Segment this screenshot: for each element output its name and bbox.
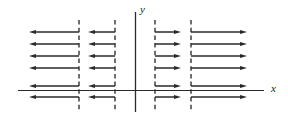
arrow-head [88,30,95,34]
vector-field-canvas: x y [0,0,288,120]
inner-right-group-arrow-6 [155,95,181,99]
far-left-group-arrow-2 [29,42,79,46]
arrow-head [88,42,95,46]
inner-right-group-arrow-1 [155,30,181,34]
arrow-head [29,30,36,34]
arrows-layer [29,30,247,99]
arrow-head [88,66,95,70]
inner-right-group-arrow-3 [155,54,181,58]
inner-right-group-arrow-2 [155,42,181,46]
inner-right-group-arrow-4 [155,66,181,70]
inner-left-group-arrow-2 [88,42,115,46]
inner-left-group-arrow-4 [88,66,115,70]
arrow-head [174,66,181,70]
arrow-head [240,95,247,99]
inner-left-group-arrow-1 [88,30,115,34]
arrow-head [174,30,181,34]
inner-left-group-arrow-5 [88,84,115,88]
arrow-head [29,66,36,70]
far-right-group-arrow-6 [191,95,247,99]
arrow-head [240,66,247,70]
arrow-head [240,30,247,34]
arrow-head [88,84,95,88]
x-axis-label: x [270,82,276,94]
far-right-group-arrow-2 [191,42,247,46]
far-right-group-arrow-5 [191,84,247,88]
y-axis-label: y [139,3,145,15]
arrow-head [29,42,36,46]
direction-field-figure: x y [0,0,288,120]
far-left-group-arrow-3 [29,54,79,58]
inner-right-group-arrow-5 [155,84,181,88]
far-right-group-arrow-4 [191,66,247,70]
far-right-group-arrow-3 [191,54,247,58]
arrow-head [174,84,181,88]
arrow-head [240,84,247,88]
arrow-head [88,54,95,58]
arrow-head [29,54,36,58]
arrow-head [174,95,181,99]
arrow-head [240,42,247,46]
inner-left-group-arrow-3 [88,54,115,58]
arrow-head [174,54,181,58]
far-left-group-arrow-6 [29,95,79,99]
far-left-group-arrow-5 [29,84,79,88]
arrow-head [88,95,95,99]
far-left-group-arrow-1 [29,30,79,34]
inner-left-group-arrow-6 [88,95,115,99]
far-right-group-arrow-1 [191,30,247,34]
arrow-head [29,95,36,99]
arrow-head [29,84,36,88]
arrow-head [240,54,247,58]
arrow-head [174,42,181,46]
far-left-group-arrow-4 [29,66,79,70]
